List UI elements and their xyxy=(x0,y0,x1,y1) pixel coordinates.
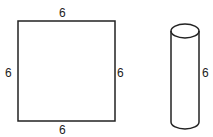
square-shape xyxy=(18,21,115,121)
square-right-label: 6 xyxy=(117,67,124,79)
diagram-canvas xyxy=(0,0,213,137)
square-bottom-label: 6 xyxy=(59,124,66,136)
cylinder-height-label: 6 xyxy=(202,67,209,79)
square-top-label: 6 xyxy=(59,7,66,19)
square-left-label: 6 xyxy=(5,67,12,79)
cylinder-shape xyxy=(171,24,199,129)
